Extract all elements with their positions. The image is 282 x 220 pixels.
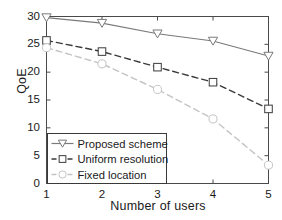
triangle-down-marker: [264, 52, 273, 60]
legend-label: Proposed scheme: [78, 138, 168, 150]
square-marker: [98, 48, 106, 56]
square-marker: [209, 78, 217, 86]
y-tick-label: 30: [18, 10, 40, 22]
x-axis-label: Number of users: [46, 199, 270, 213]
x-tick-label: 1: [37, 188, 57, 200]
x-tick-label: 3: [148, 188, 168, 200]
legend-label: Fixed location: [78, 169, 147, 181]
circle-marker: [209, 115, 217, 123]
legend-label: Uniform resolution: [78, 153, 169, 165]
square-marker: [59, 156, 66, 163]
triangle-down-marker: [208, 37, 217, 45]
x-tick-label: 2: [92, 188, 112, 200]
y-tick-label: 25: [18, 37, 40, 49]
circle-marker: [153, 85, 161, 93]
legend: Proposed schemeUniform resolutionFixed l…: [48, 134, 169, 184]
square-marker: [43, 37, 51, 45]
square-marker: [154, 63, 162, 71]
y-tick-label: 5: [18, 149, 40, 161]
series-line: [47, 40, 269, 108]
y-tick-label: 20: [18, 65, 40, 77]
y-tick-label: 15: [18, 93, 40, 105]
circle-marker: [98, 60, 106, 68]
chart-figure: Proposed schemeUniform resolutionFixed l…: [0, 0, 282, 220]
series-1: [42, 14, 273, 60]
circle-marker: [59, 171, 66, 178]
circle-marker: [264, 161, 272, 169]
x-tick-label: 4: [203, 188, 223, 200]
y-tick-label: 10: [18, 121, 40, 133]
circle-marker: [42, 44, 50, 52]
x-tick-label: 5: [259, 188, 279, 200]
square-marker: [265, 105, 273, 113]
